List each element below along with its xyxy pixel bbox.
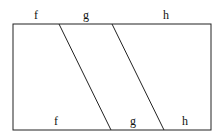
top-label-g: g xyxy=(83,8,89,22)
bottom-label-h: h xyxy=(182,114,188,128)
top-label-f: f xyxy=(34,8,38,22)
bottom-label-g: g xyxy=(130,114,136,128)
top-label-h: h xyxy=(163,8,169,22)
divider-line-1 xyxy=(59,24,111,130)
divider-line-2 xyxy=(112,24,164,130)
bottom-label-f: f xyxy=(54,114,58,128)
strip-diagram: f g h f g h xyxy=(0,0,222,138)
